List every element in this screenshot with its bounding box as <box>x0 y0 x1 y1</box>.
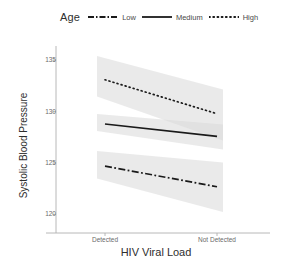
chart-figure: Age Low Medium High 135130125120 Detecte… <box>0 0 290 269</box>
y-tick-label: 135 <box>30 56 56 63</box>
y-axis-title: Systolic Blood Pressure <box>18 61 29 231</box>
x-tick-label-not-detected: Not Detected <box>187 236 247 243</box>
y-axis-tick-labels: 135130125120 <box>30 0 56 269</box>
x-axis-title-text: HIV Viral Load <box>121 246 192 258</box>
x-tick-label-detected: Detected <box>75 236 135 243</box>
y-tick-label: 120 <box>30 210 56 217</box>
confidence-band-low <box>97 151 223 212</box>
x-axis-title: HIV Viral Load <box>0 246 290 258</box>
y-tick-label: 130 <box>30 108 56 115</box>
y-tick-label: 125 <box>30 159 56 166</box>
